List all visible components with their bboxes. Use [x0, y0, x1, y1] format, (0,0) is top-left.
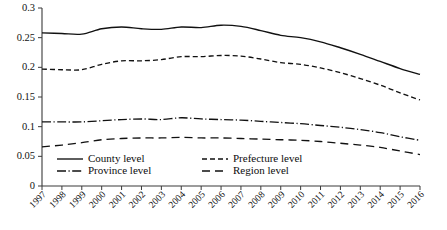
x-tick-label: 2008	[246, 189, 267, 210]
x-tick-label: 2016	[405, 189, 426, 210]
x-tick-label: 2012	[326, 189, 347, 210]
chart-legend: County levelPrefecture levelProvince lev…	[57, 152, 302, 176]
y-tick-label: 0.25	[17, 32, 35, 43]
x-tick-label: 2003	[147, 189, 168, 210]
series-line-county-level	[42, 25, 420, 74]
chart-container: 00.050.10.150.20.250.3 19971998199920002…	[0, 0, 447, 230]
legend-label-county-level: County level	[88, 152, 145, 164]
x-tick-label: 2001	[107, 189, 128, 210]
x-tick-label: 2011	[306, 189, 326, 209]
x-tick-label: 2005	[187, 189, 208, 210]
y-tick-label: 0	[30, 180, 35, 191]
x-tick-group: 1997199819992000200120022003200420052006…	[27, 186, 426, 210]
y-tick-label: 0.15	[17, 91, 35, 102]
x-tick-label: 2002	[127, 189, 148, 210]
series-line-prefecture-level	[42, 55, 420, 100]
y-tick-label: 0.05	[17, 150, 35, 161]
x-tick-label: 2006	[206, 189, 227, 210]
series-group	[42, 25, 420, 154]
x-tick-label: 2000	[87, 189, 108, 210]
x-tick-label: 2007	[226, 189, 247, 210]
y-tick-label: 0.1	[22, 121, 35, 132]
x-tick-label: 2015	[386, 189, 407, 210]
x-tick-label: 1999	[67, 189, 88, 210]
x-tick-label: 1998	[47, 189, 68, 210]
line-chart: 00.050.10.150.20.250.3 19971998199920002…	[0, 0, 447, 230]
y-tick-label: 0.3	[22, 2, 35, 13]
series-line-province-level	[42, 118, 420, 141]
y-tick-label: 0.2	[22, 61, 35, 72]
x-tick-label: 1997	[27, 189, 48, 210]
x-tick-label: 2004	[167, 189, 188, 210]
x-tick-label: 2009	[266, 189, 287, 210]
legend-label-province-level: Province level	[88, 164, 151, 176]
x-tick-label: 2010	[286, 189, 307, 210]
legend-label-region-level: Region level	[233, 164, 289, 176]
y-tick-group: 00.050.10.150.20.250.3	[17, 2, 42, 191]
legend-label-prefecture-level: Prefecture level	[233, 152, 302, 164]
x-tick-label: 2013	[346, 189, 367, 210]
x-tick-label: 2014	[366, 189, 387, 210]
